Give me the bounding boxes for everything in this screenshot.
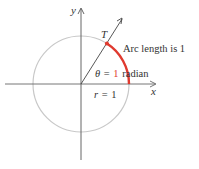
radius-label: r = 1	[94, 89, 117, 100]
angle-label: θ = 1 radian	[95, 68, 149, 79]
point-t-label: T	[101, 28, 108, 40]
angle-unit: radian	[122, 68, 149, 79]
x-axis-label: x	[150, 85, 156, 97]
radius-value: 1	[111, 89, 116, 100]
arc-length-label: Arc length is 1	[123, 43, 185, 54]
point-t	[105, 42, 109, 46]
theta-symbol: θ	[95, 68, 100, 79]
diagram-canvas: y x T Arc length is 1 θ = 1 radian r = 1	[0, 0, 199, 169]
y-axis-label: y	[70, 4, 76, 16]
radius-symbol: r	[94, 89, 99, 100]
angle-value: 1	[113, 68, 118, 79]
radian-diagram: y x T Arc length is 1 θ = 1 radian r = 1	[0, 0, 199, 169]
angle-equals: =	[104, 68, 110, 79]
radius-equals: =	[102, 89, 108, 100]
